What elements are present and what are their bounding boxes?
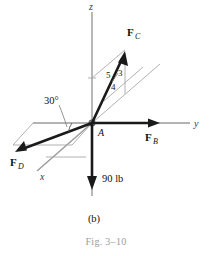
fd-left-construction bbox=[13, 123, 33, 145]
slope-horizontal-label: 4 bbox=[111, 82, 116, 92]
free-body-diagram: z y x A F C F B F D 5 3 4 30° 90 lb (b) … bbox=[0, 0, 213, 256]
weight-arrowhead bbox=[87, 176, 97, 190]
force-d-label-subscript: D bbox=[17, 162, 24, 171]
figure-container: z y x A F C F B F D 5 3 4 30° 90 lb (b) … bbox=[0, 0, 213, 256]
panel-label: (b) bbox=[88, 213, 101, 225]
force-b-label-subscript: B bbox=[153, 137, 158, 146]
slope-hypotenuse-label: 5 bbox=[106, 70, 111, 80]
force-c-label: F bbox=[127, 26, 134, 38]
z-axis-label: z bbox=[88, 1, 93, 12]
weight-magnitude-label: 90 lb bbox=[102, 173, 123, 184]
force-b-arrowhead bbox=[148, 119, 160, 128]
figure-caption: Fig. 3–10 bbox=[85, 236, 126, 247]
force-d-shaft bbox=[25, 123, 92, 148]
x-axis-positive-construction bbox=[92, 64, 160, 123]
point-a-label: A bbox=[97, 127, 105, 138]
x-axis-label: x bbox=[39, 171, 45, 182]
y-axis-label: y bbox=[193, 118, 199, 129]
force-d-arrowhead bbox=[15, 141, 27, 152]
force-d-label: F bbox=[10, 156, 17, 168]
force-c-label-subscript: C bbox=[135, 32, 141, 41]
force-b-label: F bbox=[145, 131, 152, 143]
angle-30-label: 30° bbox=[44, 95, 59, 106]
slope-vertical-label: 3 bbox=[118, 68, 123, 78]
x-axis-line bbox=[37, 123, 92, 171]
